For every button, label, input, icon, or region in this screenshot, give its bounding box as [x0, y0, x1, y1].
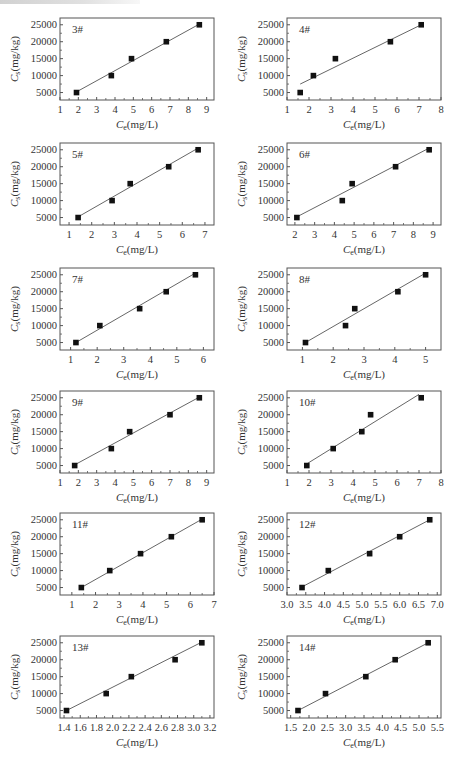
y-tick-label: 25000 — [31, 637, 57, 648]
x-tick-label: 2 — [95, 354, 100, 365]
y-tick-label: 20000 — [31, 531, 57, 542]
panel-label: 7# — [72, 273, 84, 285]
chart-panel-7: 1234565000100001500020000250007#Ce(mg/L)… — [0, 262, 228, 388]
chart-panel-6: 234567895000100001500020000250006#Ce(mg/… — [227, 137, 455, 263]
x-tick-label: 4 — [332, 229, 338, 240]
data-point-marker — [79, 585, 85, 591]
x-tick-label: 5 — [131, 104, 136, 115]
x-tick-label: 7 — [391, 229, 396, 240]
x-tick-label: 3 — [361, 354, 366, 365]
x-tick-label: 5.5 — [374, 599, 387, 610]
chart-panel-9: 1234567895000100001500020000250009#Ce(mg… — [0, 385, 228, 511]
x-tick-label: 2 — [93, 599, 98, 610]
x-tick-label: 2.6 — [155, 722, 168, 733]
x-tick-label: 2 — [76, 104, 81, 115]
y-axis-title: Cs(mg/kg) — [8, 531, 22, 577]
y-tick-label: 5000 — [263, 337, 284, 348]
chart-panel-3: 1234567895000100001500020000250003#Ce(mg… — [0, 12, 228, 138]
panel-label: 11# — [72, 518, 89, 530]
data-point-marker — [339, 198, 345, 204]
data-point-marker — [397, 534, 403, 540]
x-tick-label: 3 — [121, 354, 126, 365]
data-point-marker — [304, 463, 310, 469]
x-tick-label: 5.0 — [412, 722, 425, 733]
linear-fit-line — [297, 148, 429, 217]
chart-panel-4: 123456785000100001500020000250004#Ce(mg/… — [227, 12, 455, 138]
x-tick-label: 2.0 — [302, 722, 315, 733]
x-axis-title: Ce(mg/L) — [343, 736, 385, 750]
data-point-marker — [163, 289, 169, 295]
y-tick-label: 15000 — [258, 303, 284, 314]
y-tick-label: 5000 — [263, 460, 284, 471]
x-tick-label: 4.5 — [394, 722, 407, 733]
x-tick-label: 2.5 — [321, 722, 334, 733]
data-point-marker — [127, 181, 133, 187]
x-tick-label: 1 — [57, 477, 62, 488]
y-tick-label: 10000 — [31, 70, 57, 81]
x-tick-label: 1 — [66, 229, 71, 240]
x-axis-title: Ce(mg/L) — [343, 368, 385, 382]
y-tick-label: 5000 — [36, 705, 57, 716]
data-point-marker — [395, 289, 401, 295]
x-tick-label: 2 — [306, 477, 311, 488]
data-point-marker — [138, 551, 144, 557]
y-tick-label: 10000 — [258, 70, 284, 81]
y-tick-label: 25000 — [31, 269, 57, 280]
x-axis-title: Ce(mg/L) — [116, 491, 158, 505]
data-point-marker — [418, 395, 424, 401]
data-point-marker — [129, 674, 135, 680]
y-tick-label: 15000 — [258, 53, 284, 64]
y-tick-label: 15000 — [258, 426, 284, 437]
data-point-marker — [197, 22, 203, 28]
data-point-marker — [107, 568, 113, 574]
y-axis-title: Cs(mg/kg) — [8, 36, 22, 82]
x-tick-label: 7.0 — [431, 599, 444, 610]
panel-label: 3# — [72, 23, 84, 35]
x-tick-label: 7 — [202, 229, 207, 240]
x-tick-label: 7 — [416, 104, 421, 115]
x-tick-label: 5 — [423, 354, 428, 365]
y-tick-label: 25000 — [31, 144, 57, 155]
y-tick-label: 20000 — [31, 409, 57, 420]
y-tick-label: 5000 — [36, 460, 57, 471]
x-tick-label: 5 — [372, 104, 377, 115]
y-axis-title: Cs(mg/kg) — [8, 654, 22, 700]
y-tick-label: 20000 — [31, 286, 57, 297]
x-tick-label: 4 — [350, 477, 356, 488]
data-point-marker — [423, 272, 429, 278]
y-tick-label: 5000 — [263, 212, 284, 223]
x-tick-label: 2.4 — [139, 722, 153, 733]
y-tick-label: 10000 — [31, 688, 57, 699]
chart-panel-8: 123455000100001500020000250008#Ce(mg/L)C… — [227, 262, 455, 388]
y-axis-title: Cs(mg/kg) — [235, 409, 249, 455]
data-point-marker — [195, 147, 201, 153]
y-tick-label: 20000 — [258, 654, 284, 665]
y-tick-label: 15000 — [31, 53, 57, 64]
y-tick-label: 25000 — [258, 269, 284, 280]
x-axis-title: Ce(mg/L) — [343, 118, 385, 132]
x-tick-label: 9 — [430, 229, 435, 240]
x-tick-label: 1.4 — [57, 722, 71, 733]
y-tick-label: 25000 — [31, 392, 57, 403]
data-point-marker — [352, 306, 358, 312]
x-tick-label: 3 — [328, 104, 333, 115]
x-axis-title: Ce(mg/L) — [116, 613, 158, 627]
panel-label: 8# — [299, 273, 311, 285]
data-point-marker — [199, 517, 205, 523]
x-tick-label: 4 — [392, 354, 398, 365]
y-axis-title: Cs(mg/kg) — [8, 286, 22, 332]
data-point-marker — [164, 39, 170, 45]
x-tick-label: 6 — [201, 354, 206, 365]
x-tick-label: 6 — [394, 104, 399, 115]
y-tick-label: 10000 — [258, 565, 284, 576]
y-tick-label: 15000 — [258, 671, 284, 682]
y-tick-label: 25000 — [258, 514, 284, 525]
y-tick-label: 10000 — [31, 443, 57, 454]
x-tick-label: 5 — [352, 229, 357, 240]
x-tick-label: 3 — [94, 477, 99, 488]
linear-fit-line — [302, 520, 430, 587]
y-tick-label: 25000 — [31, 19, 57, 30]
panel-label: 5# — [72, 148, 84, 160]
y-axis-title: Cs(mg/kg) — [8, 161, 22, 207]
y-tick-label: 20000 — [258, 531, 284, 542]
